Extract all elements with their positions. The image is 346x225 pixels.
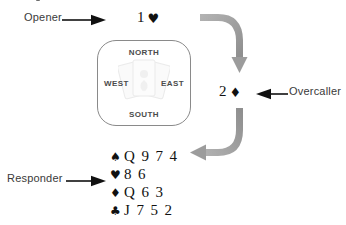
overcaller-bid: 2♦ — [219, 83, 241, 100]
hand-row: ♣ J 7 5 2 — [110, 202, 178, 220]
overcaller-pointer-arrow-icon — [256, 88, 288, 100]
hand-cards-hearts: 8 6 — [124, 166, 147, 183]
opener-bid-rank: 1 — [137, 9, 145, 25]
overcaller-label: Overcaller — [289, 85, 341, 97]
overcaller-bid-rank: 2 — [219, 83, 227, 99]
hand-row: ♠ Q 9 7 4 — [110, 148, 178, 166]
opener-label: Opener — [24, 11, 62, 23]
diamonds-suit-icon: ♦ — [230, 85, 242, 100]
hearts-suit-icon: ♥ — [148, 11, 160, 26]
clubs-suit-icon: ♣ — [110, 204, 124, 218]
flow-arrow-overcaller-to-responder — [190, 108, 240, 161]
compass-card-box: NORTH WEST EAST SOUTH — [97, 40, 191, 126]
opener-pointer-arrow-icon — [62, 14, 106, 26]
diamonds-suit-icon: ♦ — [110, 186, 124, 200]
hand-row: ♦ Q 6 3 — [110, 184, 178, 202]
hearts-suit-icon: ♥ — [110, 168, 124, 182]
compass-label-south: SOUTH — [98, 110, 190, 119]
bridge-bidding-diagram: Opener 1♥ NORTH WEST EAST SOUTH 2♦ — [0, 0, 346, 225]
compass-label-north: NORTH — [98, 48, 190, 57]
flow-arrow-opener-to-overcaller — [200, 18, 248, 74]
compass-label-east: EAST — [161, 79, 184, 88]
responder-label: Responder — [7, 172, 63, 184]
opener-bid: 1♥ — [137, 9, 159, 26]
spades-suit-icon: ♠ — [110, 150, 124, 164]
hand-cards-clubs: J 7 5 2 — [124, 202, 173, 219]
hand-row: ♥ 8 6 — [110, 166, 178, 184]
responder-hand: ♠ Q 9 7 4 ♥ 8 6 ♦ Q 6 3 ♣ J 7 5 2 — [110, 148, 178, 220]
hand-cards-spades: Q 9 7 4 — [124, 148, 178, 165]
responder-pointer-arrow-icon — [66, 175, 106, 187]
hand-cards-diamonds: Q 6 3 — [124, 184, 164, 201]
compass-label-west: WEST — [104, 79, 129, 88]
